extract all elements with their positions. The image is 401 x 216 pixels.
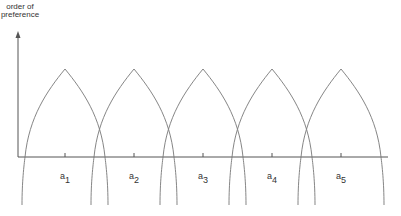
alternative-label-4: a4 (267, 171, 277, 185)
alternative-label-5: a5 (336, 171, 346, 185)
alternative-label-3: a3 (198, 171, 208, 185)
alternative-label-2: a2 (129, 171, 139, 185)
alternative-index: 2 (134, 175, 139, 185)
axes (16, 31, 389, 157)
alternative-index: 1 (65, 175, 70, 185)
alternative-index: 3 (203, 175, 208, 185)
alternative-index: 4 (272, 175, 277, 185)
alternative-label-1: a1 (60, 171, 70, 185)
alternative-index: 5 (341, 175, 346, 185)
y-axis-arrow-icon (16, 31, 21, 38)
